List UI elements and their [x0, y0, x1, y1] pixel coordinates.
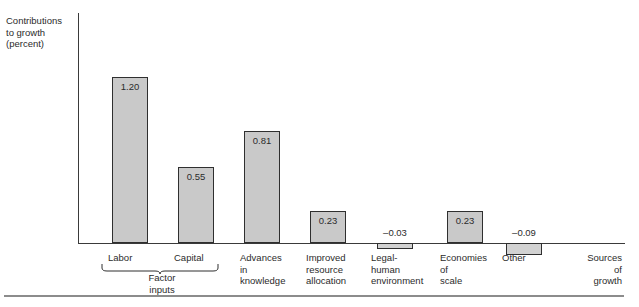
- bar-value-label-4: –0.03: [370, 227, 420, 238]
- bar-advances-in-knowledge: [244, 131, 280, 243]
- bar-labor: [112, 77, 148, 243]
- category-label-5-line-2: scale: [440, 275, 487, 287]
- x-axis-caption-line-3: growth: [540, 275, 622, 287]
- category-label-1: Capital: [174, 252, 204, 264]
- y-axis-caption: Contributions to growth (percent): [6, 15, 74, 50]
- group-label-line-1: Factor: [120, 272, 204, 284]
- category-label-6-line-0: Other: [502, 252, 526, 264]
- bar-value-label-6: –0.09: [499, 227, 549, 238]
- category-label-3: Improvedresourceallocation: [306, 252, 346, 287]
- category-label-6: Other: [502, 252, 526, 264]
- category-label-0-line-0: Labor: [108, 252, 132, 264]
- category-label-2: Advancesinknowledge: [240, 252, 285, 287]
- category-label-3-line-0: Improved: [306, 252, 346, 264]
- category-label-4-line-1: human: [371, 264, 423, 276]
- category-label-3-line-2: allocation: [306, 275, 346, 287]
- category-label-2-line-0: Advances: [240, 252, 285, 264]
- factor-inputs-group-label: Factor inputs: [120, 272, 204, 295]
- y-axis-caption-line-2: to growth: [6, 27, 74, 39]
- y-axis-caption-line-3: (percent): [6, 38, 74, 50]
- y-axis-caption-line-1: Contributions: [6, 15, 74, 27]
- category-label-2-line-1: in: [240, 264, 285, 276]
- bar-value-label-2: 0.81: [237, 135, 287, 146]
- bar-legal-human-environment: [377, 243, 413, 249]
- category-label-5: Economiesofscale: [440, 252, 487, 287]
- category-label-0: Labor: [108, 252, 132, 264]
- x-axis-caption-line-1: Sources: [540, 252, 622, 264]
- category-label-2-line-2: knowledge: [240, 275, 285, 287]
- bar-value-label-0: 1.20: [105, 81, 155, 92]
- bottom-divider: [4, 295, 624, 297]
- bar-value-label-1: 0.55: [171, 171, 221, 182]
- category-label-4-line-0: Legal-: [371, 252, 423, 264]
- category-label-5-line-1: of: [440, 264, 487, 276]
- y-axis-line: [78, 13, 79, 244]
- category-label-1-line-0: Capital: [174, 252, 204, 264]
- x-axis-caption: Sources of growth: [540, 252, 622, 287]
- category-label-4-line-2: environment: [371, 275, 423, 287]
- bar-value-label-5: 0.23: [440, 215, 490, 226]
- bar-chart-figure: Contributions to growth (percent) 1.200.…: [0, 0, 639, 307]
- x-axis-line: [78, 243, 625, 244]
- category-label-4: Legal-humanenvironment: [371, 252, 423, 287]
- group-label-line-2: inputs: [120, 284, 204, 296]
- clipped-title-text: [205, 0, 505, 1]
- category-label-5-line-0: Economies: [440, 252, 487, 264]
- bar-value-label-3: 0.23: [303, 215, 353, 226]
- x-axis-caption-line-2: of: [540, 264, 622, 276]
- category-label-3-line-1: resource: [306, 264, 346, 276]
